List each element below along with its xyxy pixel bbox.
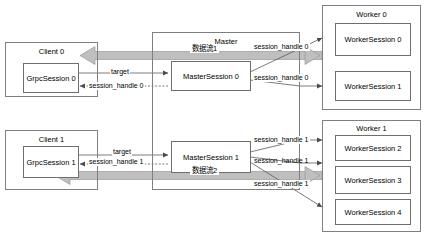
workersession-3-box[interactable]: WorkerSession 3 (335, 166, 411, 194)
worker-0-box[interactable]: Worker 0 WorkerSession 0 WorkerSession 1 (322, 5, 421, 110)
worker-1-label: Worker 1 (323, 124, 420, 133)
label-session-handle-worker-0b: session_handle 0 (253, 74, 310, 82)
worker-0-label: Worker 0 (323, 10, 420, 19)
workersession-2-box[interactable]: WorkerSession 2 (335, 135, 411, 161)
master-box[interactable]: Master MasterSession 0 MasterSession 1 (152, 32, 300, 190)
grpcsession-1-box[interactable]: GrpcSession 1 (23, 146, 79, 178)
workersession-0-box[interactable]: WorkerSession 0 (335, 23, 411, 56)
label-target-1: target (112, 148, 132, 156)
client-0-label: Client 0 (6, 47, 97, 56)
workersession-1-box[interactable]: WorkerSession 1 (335, 71, 411, 101)
worker-1-box[interactable]: Worker 1 WorkerSession 2 WorkerSession 3… (322, 120, 421, 232)
client-0-box[interactable]: Client 0 GrpcSession 0 (5, 42, 98, 97)
workersession-4-box[interactable]: WorkerSession 4 (335, 199, 411, 225)
architecture-diagram: Client 0 GrpcSession 0 Client 1 GrpcSess… (0, 0, 426, 237)
dataflow-1-label: 数据流1 (190, 44, 219, 53)
label-session-handle-client-0: session_handle 0 (88, 82, 145, 90)
label-session-handle-worker-0a: session_handle 0 (253, 43, 310, 51)
label-session-handle-client-1: session_handle 1 (88, 158, 145, 166)
label-session-handle-worker-1b: session_handle 1 (253, 157, 310, 165)
label-session-handle-worker-1a: session_handle 1 (253, 136, 310, 144)
client-1-box[interactable]: Client 1 GrpcSession 1 (5, 130, 98, 190)
label-target-0: target (110, 68, 130, 76)
label-session-handle-worker-1c: session_handle 1 (253, 180, 310, 188)
dataflow-2-label: 数据流2 (190, 166, 219, 175)
client-1-label: Client 1 (6, 135, 97, 144)
mastersession-0-box[interactable]: MasterSession 0 (171, 61, 251, 91)
grpcsession-0-box[interactable]: GrpcSession 0 (23, 63, 79, 93)
